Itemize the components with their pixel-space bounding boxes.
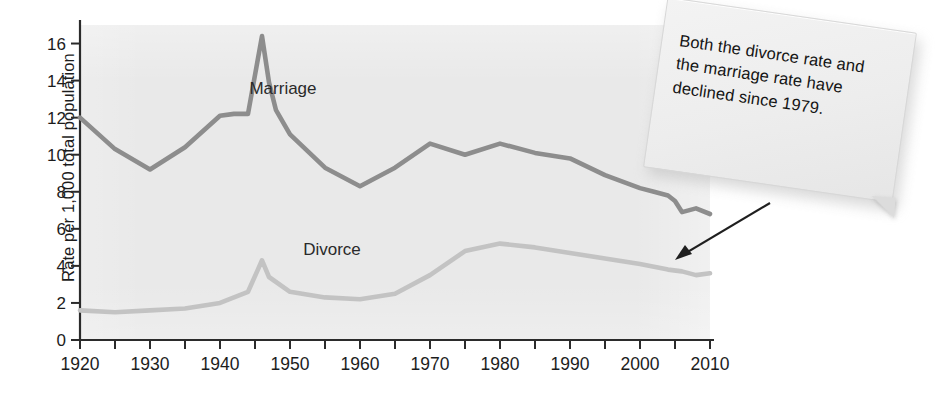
- series-label-marriage: Marriage: [249, 79, 316, 98]
- series-label-divorce: Divorce: [303, 240, 361, 259]
- series-label-group: MarriageDivorce: [249, 79, 360, 259]
- x-tick-label: 1950: [271, 354, 310, 374]
- y-tick-label: 12: [47, 109, 66, 128]
- annotation-callout: Both the divorce rate and the marriage r…: [643, 0, 917, 203]
- data-series-group: [80, 36, 710, 312]
- y-axis-ticks: 0246810121416: [47, 35, 80, 350]
- x-tick-label: 1980: [481, 354, 520, 374]
- x-tick-label: 1930: [131, 354, 170, 374]
- y-tick-label: 4: [57, 257, 66, 276]
- x-tick-label: 1990: [551, 354, 590, 374]
- series-line-divorce: [80, 244, 710, 313]
- x-tick-label: 2000: [621, 354, 660, 374]
- x-tick-label: 2010: [691, 354, 730, 374]
- y-tick-label: 6: [57, 220, 66, 239]
- x-axis-ticks: 1920193019401950196019701980199020002010: [61, 340, 730, 374]
- series-line-marriage: [80, 36, 710, 214]
- y-tick-label: 2: [57, 294, 66, 313]
- y-tick-label: 16: [47, 35, 66, 54]
- y-tick-label: 10: [47, 146, 66, 165]
- x-tick-label: 1960: [341, 354, 380, 374]
- x-tick-label: 1970: [411, 354, 450, 374]
- y-tick-label: 14: [47, 72, 66, 91]
- x-tick-label: 1920: [61, 354, 100, 374]
- chart-page: and see arrive at the rest Formula A Hos…: [0, 0, 936, 399]
- y-tick-label: 8: [57, 183, 66, 202]
- x-tick-label: 1940: [201, 354, 240, 374]
- arrow-head-icon: [675, 245, 692, 260]
- callout-tail-icon: [870, 196, 895, 218]
- y-tick-label: 0: [57, 331, 66, 350]
